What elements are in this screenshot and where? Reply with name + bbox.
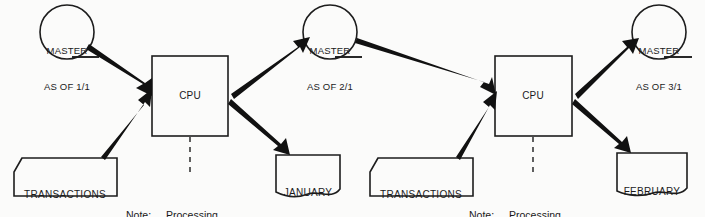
note-february: Note:Processing done on March 1. xyxy=(469,183,591,217)
flowchart-canvas: MASTER AS OF 1/1 MASTER AS OF 2/1 MASTER… xyxy=(0,0,705,217)
note-january-line1: Processing xyxy=(166,209,218,217)
note-january-row1: Note:Processing xyxy=(126,209,240,217)
note-february-key: Note: xyxy=(469,209,509,217)
punched-card-transactions-february xyxy=(370,158,473,196)
arrow-master-1-1-to-cpu xyxy=(86,44,152,96)
document-february-reports xyxy=(617,153,687,195)
magnetic-tape-master-2-1 xyxy=(303,5,362,59)
punched-card-transactions-january xyxy=(14,158,117,196)
arrow-cpu-to-master-2-1 xyxy=(231,37,310,99)
process-box-cpu-january xyxy=(152,56,228,136)
process-box-cpu-february xyxy=(495,56,572,136)
arrow-cpu-february-to-master-3-1 xyxy=(575,38,639,99)
note-january: Note:Processing done on Feb. 1. xyxy=(126,183,240,217)
arrow-transactions-january-to-cpu xyxy=(101,89,152,160)
arrow-cpu-to-january-reports xyxy=(228,99,290,155)
magnetic-tape-master-3-1 xyxy=(632,5,692,59)
arrow-master-2-1-to-cpu-february xyxy=(355,38,496,95)
arrow-transactions-february-to-cpu xyxy=(456,91,497,160)
document-january-reports xyxy=(276,155,340,196)
arrow-cpu-february-to-february-reports xyxy=(572,99,631,153)
note-february-row1: Note:Processing xyxy=(469,209,591,217)
flowchart-svg xyxy=(0,0,705,217)
note-february-line1: Processing xyxy=(509,209,561,217)
note-january-key: Note: xyxy=(126,209,166,217)
